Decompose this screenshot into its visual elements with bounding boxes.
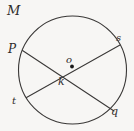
point-label-p: P	[8, 43, 16, 55]
chord-t-s	[27, 45, 121, 98]
circle-name-label: M	[7, 4, 20, 17]
intersection-point-label: k	[58, 76, 65, 87]
center-point-dot	[70, 65, 74, 69]
point-label-t: t	[12, 96, 16, 106]
point-label-s: s	[116, 33, 121, 43]
point-label-q: q	[111, 106, 118, 117]
center-point-label: o	[66, 55, 72, 65]
geometry-figure: M P s t q o k	[0, 0, 134, 131]
